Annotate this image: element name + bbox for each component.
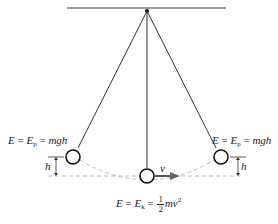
energy-symbol: E <box>8 134 15 146</box>
bob-left <box>66 150 80 164</box>
subscript-p: p <box>33 140 37 148</box>
equals-sign: = <box>221 134 227 146</box>
height-arrow-up-left-icon <box>54 157 58 160</box>
equals-sign: = <box>147 197 153 209</box>
equals-sign: = <box>39 134 45 146</box>
string-right <box>147 11 216 148</box>
height-label-right: h <box>241 161 247 172</box>
left-energy-label: E = Ep = mgh <box>8 135 67 148</box>
height-arrow-up-right-icon <box>236 157 240 160</box>
equals-sign: = <box>243 134 249 146</box>
energy-symbol: E <box>116 197 123 209</box>
potential-energy-expr: mgh <box>48 134 67 146</box>
velocity-label: v <box>160 163 165 174</box>
exponent: 2 <box>178 196 182 204</box>
energy-symbol: E <box>212 134 219 146</box>
bob-right <box>214 150 228 164</box>
bob-bottom <box>140 169 154 183</box>
height-label-left: h <box>45 161 51 172</box>
string-left <box>78 11 147 148</box>
subscript-k: k <box>141 203 145 211</box>
kinetic-energy-expr: mv <box>165 197 178 209</box>
velocity-arrowhead-icon <box>170 172 180 180</box>
bottom-energy-label: E = Ek = 1 2 mv2 <box>116 195 181 214</box>
right-energy-label: E = Ep = mgh <box>212 135 271 148</box>
pendulum-diagram <box>0 0 278 224</box>
subscript-p: p <box>237 140 241 148</box>
fraction-denominator: 2 <box>157 205 164 214</box>
fraction-half: 1 2 <box>157 195 164 214</box>
equals-sign: = <box>17 134 23 146</box>
potential-energy-expr: mgh <box>252 134 271 146</box>
equals-sign: = <box>125 197 131 209</box>
